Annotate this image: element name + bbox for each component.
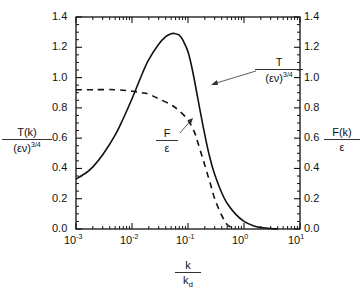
axis-ticks: [76, 17, 300, 229]
y-left-tick-label: 1.4: [52, 10, 67, 22]
f-annotation-denominator: ε: [156, 141, 178, 154]
y-right-title-numerator: F(k): [324, 126, 360, 140]
y-right-tick-label: 0.0: [304, 222, 319, 234]
y-right-tick-label: 0.4: [304, 161, 319, 173]
y-left-den-sup: 3/4: [31, 141, 41, 148]
t-annotation-den-text: (εν): [265, 72, 283, 84]
x-den-sub: d: [189, 280, 193, 289]
x-tick-label: 10-3: [64, 233, 82, 246]
x-tick-label: 10-2: [120, 233, 138, 246]
t-annotation-arrow: [213, 71, 256, 84]
x-axis-title: k kd: [175, 259, 201, 289]
y-right-tick-label: 0.8: [304, 101, 319, 113]
x-tick-label: 101: [288, 233, 304, 246]
y-right-tick-label: 0.2: [304, 192, 319, 204]
x-tick-label: 10-1: [176, 233, 194, 246]
y-left-title-denominator: (εν)3/4: [2, 140, 52, 154]
y-left-tick-label: 0.4: [52, 161, 67, 173]
y-left-tick-label: 0.6: [52, 131, 67, 143]
y-right-tick-label: 1.0: [304, 71, 319, 83]
y-left-den-text: (εν): [13, 142, 31, 154]
x-tick-label: 100: [232, 233, 248, 246]
y-left-tick-label: 1.0: [52, 71, 67, 83]
y-left-tick-label: 0.2: [52, 192, 67, 204]
t-annotation-denominator: (εν)3/4: [255, 70, 303, 84]
y-left-tick-label: 1.2: [52, 40, 67, 52]
t-annotation-den-sup: 3/4: [283, 71, 293, 78]
y-right-tick-label: 1.2: [304, 40, 319, 52]
y-right-tick-label: 0.6: [304, 131, 319, 143]
y-right-title-denominator: ε: [324, 140, 360, 153]
y-axis-left-title: T(k) (εν)3/4: [2, 126, 52, 154]
f-curve-annotation: F ε: [156, 127, 178, 154]
y-left-title-numerator: T(k): [2, 126, 52, 140]
plot-frame: [76, 17, 300, 229]
f-annotation-numerator: F: [156, 127, 178, 141]
y-left-tick-label: 0.8: [52, 101, 67, 113]
t-curve-annotation: T (εν)3/4: [255, 56, 303, 84]
x-title-denominator: kd: [175, 273, 201, 289]
t-annotation-arrowhead: [211, 80, 218, 85]
y-axis-right-title: F(k) ε: [324, 126, 360, 153]
y-right-tick-label: 1.4: [304, 10, 319, 22]
x-title-numerator: k: [175, 259, 201, 273]
t-annotation-numerator: T: [255, 56, 303, 70]
